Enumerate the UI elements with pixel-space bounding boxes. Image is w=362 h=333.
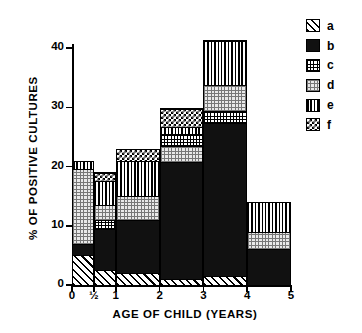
y-tick-label-10: 10: [51, 218, 64, 230]
bar-age-3: [203, 40, 247, 285]
legend-swatch-solid-black-icon: [306, 39, 320, 52]
legend-swatch-fine-grid-icon: [306, 59, 320, 72]
bar-segment-4-b: [248, 249, 290, 285]
bar-top-edge-3: [204, 40, 246, 41]
bar-segment-3-b: [204, 123, 246, 276]
y-tick-label-20: 20: [51, 159, 64, 171]
x-tick-label-2: 1: [102, 289, 130, 301]
chart-figure: % OF POSITIVE CULTURES AGE OF CHILD (YEA…: [0, 0, 362, 333]
legend-label-e: e: [327, 99, 334, 111]
bar-segment-2-a: [161, 279, 203, 285]
bar-segment-2-e: [161, 127, 203, 134]
legend-label-d: d: [327, 79, 334, 91]
bar-top-edge-2: [161, 108, 203, 109]
bar-segment-3-d: [204, 85, 246, 112]
legend-item-c[interactable]: c: [306, 56, 334, 76]
y-tick-label-30: 30: [51, 99, 64, 111]
bar-segment-4-d: [248, 232, 290, 250]
y-tick-label-0: 0: [58, 277, 64, 289]
legend-item-d[interactable]: d: [306, 75, 334, 95]
chart-legend: abcdef: [306, 16, 334, 135]
legend-swatch-vertical-lines-icon: [306, 99, 320, 112]
bar-segment-1-a: [117, 273, 159, 285]
x-tick-label-3: 2: [146, 289, 174, 301]
bar-segment-2-d: [161, 146, 203, 162]
bar-segment-0-b: [73, 244, 93, 256]
bar-segment-½-a: [95, 270, 115, 285]
bar-top-edge-½: [95, 172, 115, 173]
bar-segment-0-a: [73, 255, 93, 285]
legend-item-a[interactable]: a: [306, 16, 334, 36]
legend-item-b[interactable]: b: [306, 36, 334, 56]
bar-segment-½-b: [95, 229, 115, 270]
bar-top-edge-0: [73, 161, 93, 162]
legend-item-e[interactable]: e: [306, 95, 334, 115]
x-axis-label: AGE OF CHILD (YEARS): [60, 308, 310, 320]
bar-segment-½-d: [95, 205, 115, 220]
bar-age-1: [116, 149, 160, 285]
bar-segment-1-e: [117, 161, 159, 197]
bar-segment-½-e: [95, 181, 115, 205]
x-axis-line: [72, 285, 291, 287]
bar-age-2: [160, 108, 204, 285]
bar-segment-2-b: [161, 162, 203, 279]
legend-swatch-stipple-dots-icon: [306, 79, 320, 92]
bar-age-0: [72, 161, 94, 285]
legend-item-f[interactable]: f: [306, 115, 334, 135]
bar-top-edge-1: [117, 149, 159, 150]
bar-segment-1-b: [117, 220, 159, 273]
bar-age-4: [247, 202, 291, 285]
x-tick-label-4: 3: [189, 289, 217, 301]
legend-label-b: b: [327, 40, 334, 52]
plot-area: [72, 44, 290, 285]
legend-label-f: f: [327, 119, 331, 131]
y-tick-label-40: 40: [51, 40, 64, 52]
x-tick-label-5: 4: [233, 289, 261, 301]
bar-segment-3-e: [204, 40, 246, 84]
legend-label-c: c: [327, 59, 334, 71]
bar-segment-4-e: [248, 202, 290, 232]
bar-age-½: [94, 172, 116, 285]
bar-segment-3-c: [204, 111, 246, 123]
bar-segment-1-f: [117, 149, 159, 161]
legend-swatch-diagonal-hatch-icon: [306, 19, 320, 32]
x-tick-label-6: 5: [277, 289, 305, 301]
bar-segment-3-a: [204, 276, 246, 285]
bar-top-edge-4: [248, 202, 290, 203]
bar-segment-½-c: [95, 220, 115, 229]
bar-segment-1-d: [117, 196, 159, 220]
bar-segment-0-d: [73, 169, 93, 243]
y-axis-label: % OF POSITIVE CULTURES: [27, 33, 39, 283]
bar-segment-2-c: [161, 134, 203, 146]
legend-swatch-checkerboard-icon: [306, 118, 320, 131]
bar-segment-2-f: [161, 108, 203, 126]
legend-label-a: a: [327, 20, 334, 32]
